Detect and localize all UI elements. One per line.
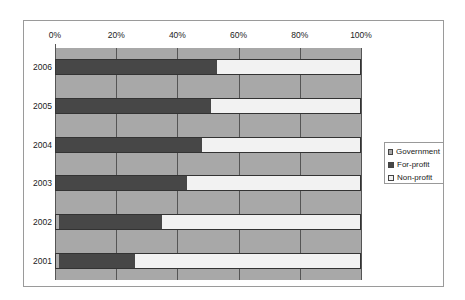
non-profit-swatch bbox=[388, 175, 394, 181]
bar-2004 bbox=[55, 137, 361, 153]
segment-non-profit bbox=[162, 215, 360, 229]
gridline bbox=[177, 48, 178, 280]
y-category-label: 2003 bbox=[30, 178, 52, 188]
government-swatch bbox=[388, 149, 393, 155]
segment-non-profit bbox=[211, 99, 360, 113]
bar-2005 bbox=[55, 98, 361, 114]
segment-for-profit bbox=[56, 99, 211, 113]
x-tick-label: 80% bbox=[291, 30, 308, 40]
x-tick-label: 60% bbox=[230, 30, 247, 40]
legend-item-government: Government bbox=[388, 145, 440, 158]
y-axis-line bbox=[55, 44, 56, 280]
segment-for-profit bbox=[56, 176, 187, 190]
legend-label: For-profit bbox=[397, 160, 429, 169]
bar-2002 bbox=[55, 214, 361, 230]
segment-for-profit bbox=[59, 254, 135, 268]
gridline bbox=[116, 48, 117, 280]
y-category-label: 2001 bbox=[30, 256, 52, 266]
legend-item-non-profit: Non-profit bbox=[388, 171, 440, 184]
x-tick-label: 100% bbox=[350, 30, 372, 40]
segment-for-profit bbox=[59, 215, 162, 229]
gridline bbox=[300, 48, 301, 280]
x-tick-label: 20% bbox=[108, 30, 125, 40]
segment-non-profit bbox=[202, 138, 360, 152]
gridline bbox=[361, 48, 362, 280]
y-category-label: 2005 bbox=[30, 101, 52, 111]
bar-2003 bbox=[55, 175, 361, 191]
bar-2001 bbox=[55, 253, 361, 269]
legend-item-for-profit: For-profit bbox=[388, 158, 440, 171]
gridline bbox=[239, 48, 240, 280]
y-category-label: 2006 bbox=[30, 62, 52, 72]
legend-label: Government bbox=[396, 147, 440, 156]
for-profit-swatch bbox=[388, 162, 394, 168]
bar-2006 bbox=[55, 59, 361, 75]
segment-for-profit bbox=[56, 60, 217, 74]
segment-non-profit bbox=[187, 176, 360, 190]
y-category-label: 2004 bbox=[30, 140, 52, 150]
plot-area bbox=[55, 48, 361, 280]
x-tick-label: 0% bbox=[49, 30, 61, 40]
y-category-label: 2002 bbox=[30, 217, 52, 227]
segment-non-profit bbox=[135, 254, 360, 268]
legend: Government For-profit Non-profit bbox=[384, 142, 444, 184]
x-tick-label: 40% bbox=[169, 30, 186, 40]
legend-label: Non-profit bbox=[397, 173, 432, 182]
segment-for-profit bbox=[56, 138, 202, 152]
segment-non-profit bbox=[217, 60, 360, 74]
